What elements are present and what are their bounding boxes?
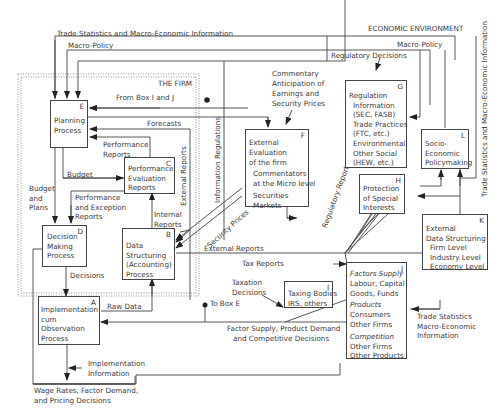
box-b-data-structuring: B Data Structuring (Accounting) Process [122, 228, 175, 280]
box-a-implementation: A Implementation cum Observation Process [38, 296, 100, 345]
implementation-info-label: Implementation Information [88, 359, 145, 378]
factor-supply-label: Factor Supply, Product Demand and Compet… [227, 324, 340, 344]
macro-policy-right-label: Macro-Policy [397, 40, 442, 50]
trade-stats-top-label: Trade Statistics and Macro-Economic Info… [57, 29, 233, 39]
trade-stats-right-label: Trade Statistics Macro-Economic Informat… [417, 312, 476, 341]
information-regulations-label: Information Regulations [213, 117, 222, 203]
box-f-external-evaluation: F External Evaluation of the firm Commen… [245, 129, 309, 207]
box-h-protection-special-interests: H Protection of Special Interests [359, 174, 405, 214]
internal-reports-label: Internal Reports [154, 210, 182, 229]
tax-reports-label: Tax Reports [242, 259, 284, 269]
budget-label: Budget [67, 170, 93, 180]
box-i-taxing-bodies: I Taxing Bodies IRS, others [284, 281, 333, 308]
environment-region-label: ECONOMIC ENVIRONMENT [368, 24, 463, 34]
to-box-e-label: To Box E [210, 299, 240, 309]
external-reports-horizontal-label: External Reports [204, 244, 264, 254]
external-reports-vertical-label: External Reports [179, 146, 188, 206]
box-j-factors-products-competition: J Factors Supply Labour, Capital Goods, … [346, 262, 407, 359]
macro-policy-left-label: Macro-Policy [68, 41, 113, 51]
box-e-planning: E Planning Process [50, 100, 88, 148]
trade-stats-vertical-label: Trade Statistics and Macro-Economic Info… [480, 21, 489, 197]
box-c-performance-evaluation: C Performance Evaluation Reports [124, 157, 175, 194]
regulatory-decisions-label: Regulatory Decisions [331, 51, 407, 61]
box-k-external-data-structuring: K External Data Structuring Firm Level I… [422, 214, 488, 270]
box-g-regulation: G Regulation Information (SEC, FASB) Tra… [345, 80, 407, 168]
budget-and-plans-label: Budget and Plans [29, 184, 55, 213]
box-l-socio-economic: L Socio- Economic Policymaking [421, 129, 469, 169]
box-d-decision-making: D Decision Making Process [42, 225, 87, 267]
firm-region-label: THE FIRM [158, 79, 192, 89]
commentary-label: Commentary Anticipation of Earnings and … [272, 69, 325, 109]
forecasts-label: Forecasts [147, 119, 181, 129]
wage-rates-label: Wage Rates, Factor Demand, and Pricing D… [34, 386, 138, 405]
taxation-decisions-label: Taxation Decisions [232, 278, 266, 297]
from-box-ij-label: From Box I and J [116, 93, 174, 103]
raw-data-label: Raw Data [107, 302, 142, 312]
decisions-label: Decisions [70, 271, 104, 281]
perf-exception-reports-label: Performance and Exception Reports [75, 193, 126, 222]
